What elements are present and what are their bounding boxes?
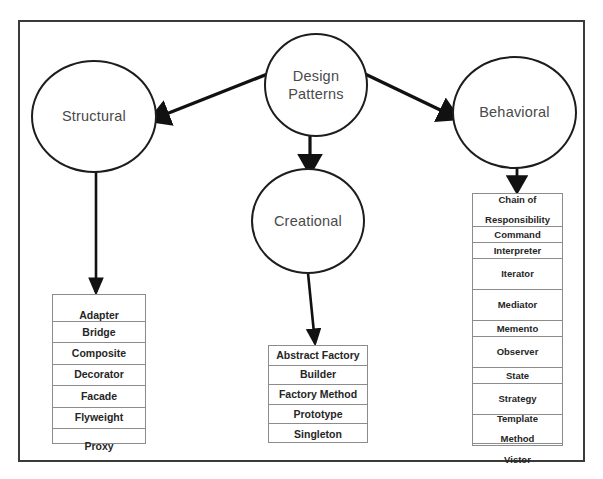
- list-item[interactable]: Mediator: [473, 290, 562, 321]
- pattern-name: Decorator: [53, 369, 145, 380]
- node-structural[interactable]: Structural: [31, 60, 157, 173]
- node-creational[interactable]: Creational: [251, 168, 365, 274]
- list-item[interactable]: Chain of Responsibility: [473, 194, 562, 227]
- pattern-name: Factory Method: [269, 389, 367, 400]
- pattern-name: Command: [473, 230, 562, 240]
- pattern-name: Prototype: [269, 409, 367, 420]
- pattern-name-line1: Chain of: [473, 195, 562, 205]
- list-item[interactable]: Interpreter: [473, 243, 562, 259]
- pattern-name: Flyweight: [53, 412, 145, 423]
- pattern-name: Iterator: [473, 269, 562, 279]
- node-creational-label: Creational: [274, 212, 342, 230]
- pattern-name: Singleton: [269, 429, 367, 440]
- list-item[interactable]: Memento: [473, 321, 562, 337]
- design-patterns-diagram: Design Patterns Structural Behavioral Cr…: [0, 0, 603, 479]
- pattern-name: Memento: [473, 324, 562, 334]
- list-item[interactable]: Observer: [473, 337, 562, 368]
- node-design-patterns-line1: Design: [293, 68, 339, 84]
- creational-pattern-list: Abstract Factory Builder Factory Method …: [268, 345, 368, 443]
- structural-pattern-list: Adapter Bridge Composite Decorator Facad…: [52, 294, 146, 444]
- list-item[interactable]: Iterator: [473, 259, 562, 290]
- pattern-name: Template Method: [473, 414, 562, 444]
- pattern-name: Proxy: [53, 441, 145, 452]
- pattern-name: Builder: [269, 369, 367, 380]
- list-item[interactable]: Singleton: [269, 424, 367, 444]
- list-item[interactable]: Proxy: [53, 429, 145, 464]
- pattern-name: Bridge: [53, 327, 145, 338]
- pattern-name: State: [473, 371, 562, 381]
- list-item[interactable]: Command: [473, 227, 562, 243]
- list-item[interactable]: Prototype: [269, 405, 367, 425]
- list-item[interactable]: Strategy: [473, 384, 562, 415]
- list-item[interactable]: Vistor: [473, 444, 562, 475]
- list-item[interactable]: Composite: [53, 343, 145, 364]
- node-behavioral-label: Behavioral: [479, 103, 550, 121]
- pattern-name-line2: Responsibility: [473, 215, 562, 225]
- node-design-patterns-label: Design Patterns: [288, 67, 344, 103]
- node-structural-label: Structural: [62, 107, 126, 125]
- node-design-patterns-line2: Patterns: [288, 86, 344, 102]
- list-item[interactable]: Adapter: [53, 295, 145, 322]
- list-item[interactable]: State: [473, 368, 562, 384]
- list-item[interactable]: Flyweight: [53, 408, 145, 429]
- pattern-name: Composite: [53, 348, 145, 359]
- pattern-name: Mediator: [473, 300, 562, 310]
- pattern-name-line1: Template: [473, 414, 562, 424]
- pattern-name: Strategy: [473, 394, 562, 404]
- pattern-name: Abstract Factory: [269, 350, 367, 361]
- pattern-name: Interpreter: [473, 246, 562, 256]
- list-item[interactable]: Bridge: [53, 322, 145, 343]
- list-item[interactable]: Template Method: [473, 415, 562, 444]
- node-behavioral[interactable]: Behavioral: [452, 56, 577, 169]
- list-item[interactable]: Builder: [269, 366, 367, 386]
- pattern-name: Observer: [473, 347, 562, 357]
- list-item[interactable]: Abstract Factory: [269, 346, 367, 366]
- list-item[interactable]: Factory Method: [269, 385, 367, 405]
- list-item[interactable]: Decorator: [53, 365, 145, 386]
- list-item[interactable]: Facade: [53, 386, 145, 407]
- pattern-name: Chain of Responsibility: [473, 195, 562, 225]
- pattern-name-line2: Method: [473, 434, 562, 444]
- pattern-name: Facade: [53, 391, 145, 402]
- pattern-name: Adapter: [53, 310, 145, 321]
- behavioral-pattern-list: Chain of Responsibility Command Interpre…: [472, 193, 563, 446]
- pattern-name: Vistor: [473, 455, 562, 465]
- node-design-patterns[interactable]: Design Patterns: [264, 33, 368, 137]
